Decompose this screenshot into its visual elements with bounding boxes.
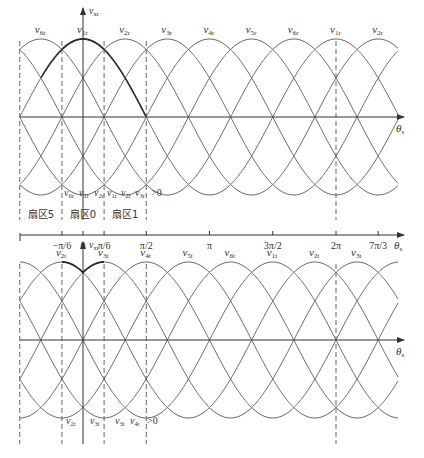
condition-label: v1r — [79, 187, 90, 199]
condition-label: v3t — [115, 415, 125, 427]
condition-positive: >0 — [147, 415, 158, 426]
sector-label: 扇区0 — [70, 208, 96, 220]
tick-label: 7π/3 — [369, 240, 387, 251]
peak-label: v5t — [182, 246, 192, 260]
sector-axis-label: θs — [394, 239, 402, 253]
peak-label: v3t — [351, 246, 361, 260]
envelope-highlight — [104, 49, 146, 116]
peak-label: v4r — [204, 23, 215, 37]
condition-positive: >0 — [151, 187, 162, 198]
theta-axis-label: θs — [396, 122, 404, 136]
condition-label: v1r — [107, 187, 118, 199]
sector-label: 扇区1 — [112, 208, 138, 220]
bottom-plot: θsvxtv2tv3tv4tv5tv6tv1tv2tv3tv2tv3tv3tv4… — [20, 239, 405, 444]
peak-label: v6t — [225, 246, 235, 260]
theta-axis-label: θs — [396, 345, 404, 359]
peak-label: v5r — [246, 23, 257, 37]
top-plot: θsvxrv6rv1rv2rv3rv4rv5rv6rv1rv2rv6rv1rv2… — [20, 5, 405, 220]
condition-label: v2r — [121, 187, 132, 199]
sector-axis: −π/60π/6π/2π3π/22π7π/3θs扇区5扇区0扇区1 — [20, 208, 404, 253]
tick-label: π — [207, 240, 212, 251]
waveform-figure: θsvxrv6rv1rv2rv3rv4rv5rv6rv1rv2rv6rv1rv2… — [0, 0, 424, 458]
peak-label: v3r — [161, 23, 172, 37]
sector-label: 扇区5 — [28, 208, 54, 220]
peak-label: v6r — [35, 23, 46, 37]
tick-label: 2π — [331, 240, 341, 251]
condition-label: v6r — [64, 187, 75, 199]
peak-label: v2r — [119, 23, 130, 37]
voltage-axis-label: vxr — [89, 5, 100, 17]
envelope-highlight — [41, 49, 62, 77]
peak-label: v2t — [309, 246, 319, 260]
condition-label: v2t — [66, 415, 76, 427]
condition-label: v3r — [135, 187, 146, 199]
peak-label: v1r — [330, 23, 341, 37]
voltage-waveform-diagram: θsvxrv6rv1rv2rv3rv4rv5rv6rv1rv2rv6rv1rv2… — [0, 0, 424, 458]
peak-label: v2r — [372, 23, 383, 37]
peak-label: v6r — [288, 23, 299, 37]
